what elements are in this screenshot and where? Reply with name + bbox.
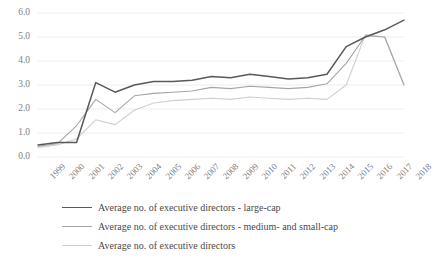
series-lines bbox=[38, 20, 404, 147]
legend-item[interactable]: Average no. of executive directors bbox=[62, 236, 402, 255]
legend-line-swatch bbox=[62, 245, 92, 246]
y-axis-tick-label: 6.0 bbox=[6, 8, 30, 18]
legend-label: Average no. of executive directors bbox=[98, 240, 235, 251]
x-axis-tick-label: 2018 bbox=[414, 162, 433, 181]
legend-line-swatch bbox=[62, 226, 92, 227]
y-axis-tick-label: 5.0 bbox=[6, 32, 30, 42]
legend-line-swatch bbox=[62, 207, 92, 208]
legend-item[interactable]: Average no. of executive directors - lar… bbox=[62, 198, 402, 217]
legend-label: Average no. of executive directors - med… bbox=[98, 221, 338, 232]
y-axis-tick-label: 4.0 bbox=[6, 56, 30, 66]
y-axis-tick-label: 3.0 bbox=[6, 80, 30, 90]
y-axis-tick-label: 1.0 bbox=[6, 128, 30, 138]
legend-item[interactable]: Average no. of executive directors - med… bbox=[62, 217, 402, 236]
gridlines bbox=[38, 13, 404, 157]
y-axis-tick-label: 0.0 bbox=[6, 152, 30, 162]
series-line bbox=[38, 20, 404, 145]
legend-label: Average no. of executive directors - lar… bbox=[98, 202, 281, 213]
y-axis-tick-label: 2.0 bbox=[6, 104, 30, 114]
chart-legend: Average no. of executive directors - lar… bbox=[62, 198, 402, 255]
